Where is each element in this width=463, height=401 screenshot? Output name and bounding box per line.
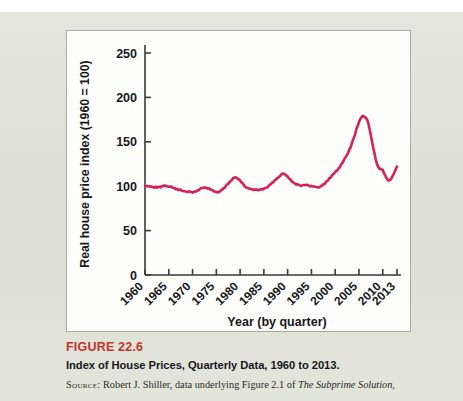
x-tick-label: 1970 bbox=[165, 279, 194, 308]
house-price-series-line bbox=[145, 116, 397, 193]
house-price-line-chart: 0501001502002501960196519701975198019851… bbox=[67, 31, 412, 333]
x-tick-label: 1965 bbox=[141, 279, 170, 308]
source-prefix: Source: bbox=[66, 379, 100, 390]
x-tick-label: 1975 bbox=[189, 279, 218, 308]
figure-title: Index of House Prices, Quarterly Data, 1… bbox=[66, 358, 458, 372]
source-book-title: The Subprime Solution bbox=[298, 379, 392, 390]
series-layer bbox=[145, 116, 397, 193]
x-axis-title: Year (by quarter) bbox=[227, 315, 326, 329]
figure-number: FIGURE 22.6 bbox=[66, 340, 458, 355]
x-tick-label: 2005 bbox=[331, 279, 360, 308]
x-tick-label: 1995 bbox=[284, 279, 313, 308]
figure-source: Source: Robert J. Shiller, data underlyi… bbox=[66, 379, 458, 391]
x-tick-label: 1960 bbox=[117, 279, 146, 308]
x-tick-label: 1985 bbox=[236, 279, 265, 308]
source-text-part-1: Robert J. Shiller, data underlying Figur… bbox=[100, 379, 298, 390]
label-layer: 0501001502002501960196519701975198019851… bbox=[78, 47, 398, 330]
x-tick-label: 2000 bbox=[308, 279, 337, 308]
source-text-part-2: , bbox=[392, 379, 395, 390]
y-tick-label: 250 bbox=[116, 47, 137, 61]
x-tick-label: 1990 bbox=[260, 279, 289, 308]
chart-panel: 0501001502002501960196519701975198019851… bbox=[66, 30, 411, 332]
y-tick-label: 100 bbox=[116, 180, 137, 194]
figure-page: 0501001502002501960196519701975198019851… bbox=[0, 0, 463, 401]
axis-layer bbox=[145, 45, 401, 275]
y-axis-title: Real house price index (1960 = 100) bbox=[78, 60, 92, 267]
x-tick-label: 1980 bbox=[212, 279, 241, 308]
y-tick-label: 200 bbox=[116, 91, 137, 105]
y-tick-label: 150 bbox=[116, 135, 137, 149]
y-tick-label: 50 bbox=[123, 224, 137, 238]
figure-caption: FIGURE 22.6 Index of House Prices, Quart… bbox=[66, 340, 458, 391]
